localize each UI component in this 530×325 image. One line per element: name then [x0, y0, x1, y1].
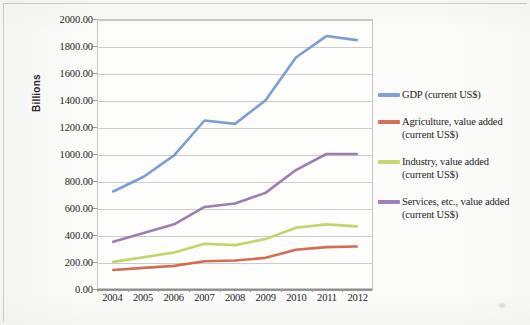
legend-color-swatch — [378, 160, 400, 164]
y-axis-tick-mark — [93, 19, 97, 20]
legend-item-label: Agriculture, value added (current US$) — [402, 115, 522, 142]
legend-item-label: GDP (current US$) — [402, 88, 481, 102]
y-axis-tick-label: 2000.00 — [31, 14, 93, 25]
y-axis-tick-label: 600.00 — [31, 203, 93, 214]
scan-artifact — [497, 302, 507, 309]
y-axis-tick-label: 1200.00 — [31, 122, 93, 133]
legend-item[interactable]: Agriculture, value added (current US$) — [378, 115, 524, 142]
x-axis-tick-labels: 200420052006200720082009201020112012 — [97, 292, 373, 314]
y-axis-tick-mark — [93, 154, 97, 155]
y-axis-tick-labels: 0.00200.00400.00600.00800.001000.001200.… — [29, 19, 93, 289]
y-axis-tick-label: 0.00 — [31, 284, 93, 295]
legend-item-label: Services, etc., value added (current US$… — [402, 195, 522, 222]
gridline — [98, 290, 372, 291]
x-axis-tick-label: 2004 — [102, 292, 122, 303]
x-axis-tick-mark — [250, 289, 251, 292]
y-axis-tick-mark — [93, 73, 97, 74]
y-axis-tick-mark — [93, 208, 97, 209]
x-axis-tick-label: 2007 — [194, 292, 214, 303]
y-axis-tick-mark — [93, 46, 97, 47]
legend-item[interactable]: Services, etc., value added (current US$… — [378, 195, 524, 222]
x-axis-tick-label: 2011 — [317, 292, 337, 303]
x-axis-tick-label: 2005 — [133, 292, 153, 303]
x-axis-line — [97, 289, 373, 290]
chart-figure: Billions 0.00200.00400.00600.00800.00100… — [0, 0, 530, 325]
legend-item[interactable]: Industry, value added (current US$) — [378, 155, 524, 182]
plot-area — [97, 19, 373, 289]
legend-item[interactable]: GDP (current US$) — [378, 88, 524, 102]
x-axis-tick-mark — [220, 289, 221, 292]
y-axis-tick-label: 800.00 — [31, 176, 93, 187]
x-axis-tick-mark — [128, 289, 129, 292]
x-axis-tick-mark — [97, 289, 98, 292]
legend-item-label: Industry, value added (current US$) — [402, 155, 522, 182]
series-line — [113, 246, 357, 269]
series-line — [113, 36, 357, 191]
y-axis-tick-label: 400.00 — [31, 230, 93, 241]
y-axis-tick-label: 1800.00 — [31, 41, 93, 52]
x-axis-tick-mark — [342, 289, 343, 292]
legend-color-swatch — [378, 93, 400, 97]
y-axis-tick-label: 200.00 — [31, 257, 93, 268]
y-axis-tick-mark — [93, 262, 97, 263]
y-axis-tick-mark — [93, 181, 97, 182]
legend-color-swatch — [378, 120, 400, 124]
x-axis-tick-mark — [189, 289, 190, 292]
x-axis-tick-mark — [158, 289, 159, 292]
x-axis-tick-label: 2006 — [164, 292, 184, 303]
x-axis-tick-mark — [312, 289, 313, 292]
x-axis-tick-label: 2008 — [225, 292, 245, 303]
y-axis-tick-mark — [93, 100, 97, 101]
chart-legend: GDP (current US$)Agriculture, value adde… — [378, 88, 524, 235]
y-axis-tick-mark — [93, 235, 97, 236]
y-axis-tick-mark — [93, 127, 97, 128]
y-axis-tick-label: 1000.00 — [31, 149, 93, 160]
x-axis-tick-label: 2009 — [256, 292, 276, 303]
y-axis-tick-label: 1400.00 — [31, 95, 93, 106]
series-line — [113, 154, 357, 242]
x-axis-tick-mark — [281, 289, 282, 292]
series-lines — [98, 20, 372, 288]
x-axis-tick-label: 2010 — [286, 292, 306, 303]
x-axis-tick-label: 2012 — [348, 292, 368, 303]
y-axis-tick-label: 1600.00 — [31, 68, 93, 79]
legend-color-swatch — [378, 200, 400, 204]
